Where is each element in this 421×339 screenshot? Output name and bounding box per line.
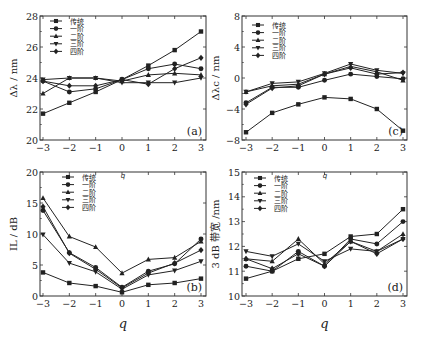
panel-label: (d) <box>387 281 403 294</box>
x-tick-label: −1 <box>291 142 305 153</box>
y-tick-label: 24 <box>26 73 38 84</box>
series-1 <box>41 208 204 290</box>
y-tick-label: 10 <box>26 229 38 240</box>
y-tick-label: 15 <box>228 167 240 178</box>
legend-entry: 四阶 <box>272 51 286 60</box>
x-tick-label: 2 <box>374 142 380 153</box>
panel-a-delta-lambda: −3−2−101232022242628Δλ / nm(a)传统一阶二阶三阶四阶 <box>8 11 206 154</box>
series-4 <box>40 204 203 291</box>
x-tick-label: −3 <box>239 142 253 153</box>
x-tick-label: 1 <box>145 298 151 309</box>
y-tick-label: 12 <box>228 241 240 252</box>
axes-frame <box>40 172 206 296</box>
series-3 <box>40 233 203 293</box>
x-tick-label: 1 <box>145 142 151 153</box>
y-tick-label: 11 <box>228 266 240 277</box>
legend: 传统一阶二阶三阶四阶 <box>254 174 288 213</box>
y-tick-label: 22 <box>26 104 38 115</box>
y-tick-label: 14 <box>228 191 240 202</box>
y-tick-label: 4 <box>234 42 240 53</box>
axes-frame <box>242 172 407 296</box>
series-0 <box>41 29 203 116</box>
panel-label: (a) <box>187 125 202 138</box>
q-annotation: q <box>323 172 328 180</box>
x-tick-label: 1 <box>348 298 354 309</box>
x-tick-label: −2 <box>265 298 279 309</box>
legend: 传统一阶二阶三阶四阶 <box>252 21 286 60</box>
x-tick-label: −2 <box>62 298 76 309</box>
x-tick-label: −2 <box>265 142 279 153</box>
legend-entry: 四阶 <box>274 204 288 213</box>
x-tick-label: −1 <box>291 298 305 309</box>
x-tick-label: 2 <box>172 298 178 309</box>
x-tick-label: 2 <box>172 142 178 153</box>
x-tick-label: 2 <box>374 298 380 309</box>
y-axis-label: IL / dB <box>8 217 19 251</box>
legend-entry: 四阶 <box>82 203 96 212</box>
x-tick-label: 0 <box>321 298 327 309</box>
panel-label: (b) <box>186 281 202 294</box>
x-tick-label: −3 <box>36 298 50 309</box>
x-tick-label: 3 <box>198 142 204 153</box>
x-tick-label: 0 <box>321 142 327 153</box>
y-tick-label: 26 <box>26 42 38 53</box>
q-annotation: q <box>121 172 126 180</box>
y-tick-label: 28 <box>26 11 38 22</box>
y-tick-label: 8 <box>234 11 240 22</box>
figure-canvas: −3−2−101232022242628Δλ / nm(a)传统一阶二阶三阶四阶… <box>0 0 421 339</box>
legend-entry: 四阶 <box>70 47 84 56</box>
legend: 传统一阶二阶三阶四阶 <box>50 17 84 56</box>
y-axis-label: Δλc / nm <box>210 55 221 100</box>
series-0 <box>244 95 405 134</box>
x-tick-label: −1 <box>89 142 103 153</box>
x-axis-label: q <box>320 316 328 331</box>
x-tick-label: 3 <box>400 298 406 309</box>
y-tick-label: 5 <box>32 260 38 271</box>
y-tick-label: 20 <box>26 167 38 178</box>
x-axis-label: q <box>119 316 127 331</box>
panel-b-insertion-loss: −3−2−1012305101520IL / dBq(b)传统一阶二阶三阶四阶q <box>8 167 206 332</box>
panel-c-delta-lambda-c: −3−2−10123−8−4048Δλc / nm(c)传统一阶二阶三阶四阶 <box>210 11 407 154</box>
y-tick-label: −4 <box>226 104 240 115</box>
x-tick-label: 0 <box>119 142 125 153</box>
y-tick-label: 0 <box>32 291 38 302</box>
x-tick-label: −1 <box>89 298 103 309</box>
x-tick-label: 3 <box>198 298 204 309</box>
panel-d-3db-bandwidth: −3−2−101231011121314153 dB 带宽 /nmq(d)传统一… <box>209 167 407 332</box>
x-tick-label: −2 <box>62 142 76 153</box>
y-tick-label: 0 <box>234 73 240 84</box>
y-tick-label: 15 <box>26 198 38 209</box>
y-axis-label: 3 dB 带宽 /nm <box>209 199 221 268</box>
y-tick-label: −8 <box>226 135 240 146</box>
x-tick-label: 3 <box>400 142 406 153</box>
x-tick-label: 1 <box>348 142 354 153</box>
x-tick-label: −3 <box>239 298 253 309</box>
x-tick-label: −3 <box>36 142 50 153</box>
x-tick-label: 0 <box>119 298 125 309</box>
y-tick-label: 10 <box>228 291 240 302</box>
series-3 <box>243 237 405 264</box>
y-axis-label: Δλ / nm <box>8 58 19 98</box>
series-0 <box>244 207 405 281</box>
y-tick-label: 13 <box>228 216 240 227</box>
y-tick-label: 20 <box>26 135 38 146</box>
panel-label: (c) <box>388 125 403 138</box>
legend: 传统一阶二阶三阶四阶 <box>62 173 96 212</box>
